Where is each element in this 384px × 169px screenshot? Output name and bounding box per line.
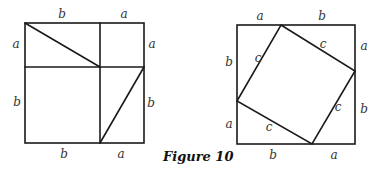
right-label-bottom-b: b bbox=[269, 148, 277, 162]
right-label-inner-c-topright: c bbox=[320, 37, 327, 51]
left-label-bottom-b: b bbox=[60, 147, 68, 161]
left-label-top-b: b bbox=[58, 7, 66, 21]
left-top-diagonal bbox=[25, 23, 100, 67]
left-label-bottom-a: a bbox=[117, 147, 124, 161]
right-outer-square bbox=[237, 25, 355, 144]
right-inner-tilted-square bbox=[237, 25, 355, 144]
left-outer-square bbox=[25, 23, 144, 143]
figure-10-diagram: b a a b a b b a Figure 10 a b a b b a b … bbox=[0, 0, 384, 169]
right-label-top-b: b bbox=[318, 9, 326, 23]
right-square: a b a b b a b a c c c c bbox=[225, 9, 368, 162]
right-label-top-a: a bbox=[256, 9, 263, 23]
right-label-inner-c-topleft: c bbox=[255, 51, 262, 65]
left-label-left-b: b bbox=[13, 95, 21, 109]
left-bottom-diagonal bbox=[100, 67, 144, 143]
right-label-right-a: a bbox=[360, 39, 367, 53]
right-label-left-b: b bbox=[225, 55, 233, 69]
left-label-right-a: a bbox=[148, 37, 155, 51]
right-label-left-a: a bbox=[225, 117, 232, 131]
left-label-left-a: a bbox=[12, 37, 19, 51]
right-label-inner-c-bottomleft: c bbox=[266, 120, 273, 134]
left-label-right-b: b bbox=[147, 96, 155, 110]
left-square: b a a b a b b a bbox=[12, 7, 155, 161]
right-label-inner-c-bottomright: c bbox=[335, 100, 342, 114]
left-label-top-a: a bbox=[120, 7, 127, 21]
right-label-right-b: b bbox=[360, 102, 368, 116]
figure-caption: Figure 10 bbox=[162, 149, 233, 164]
right-label-bottom-a: a bbox=[330, 148, 337, 162]
